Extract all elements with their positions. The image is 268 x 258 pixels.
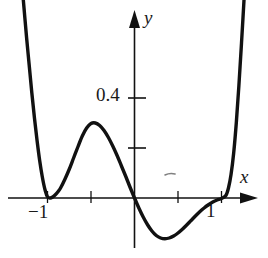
y-axis-tick-label-0.4: 0.4 xyxy=(96,85,120,104)
graph-figure: 0.4 −1 1 y x xyxy=(0,0,268,258)
x-axis-tick-label-1: 1 xyxy=(206,201,216,220)
x-axis-arrowhead xyxy=(240,192,258,203)
scan-smudge-mark xyxy=(165,173,175,175)
x-axis-label: x xyxy=(240,167,248,186)
y-axis-label: y xyxy=(144,8,152,27)
y-axis-arrowhead xyxy=(129,10,140,28)
x-axis-tick-label-negative-1: −1 xyxy=(28,202,48,221)
